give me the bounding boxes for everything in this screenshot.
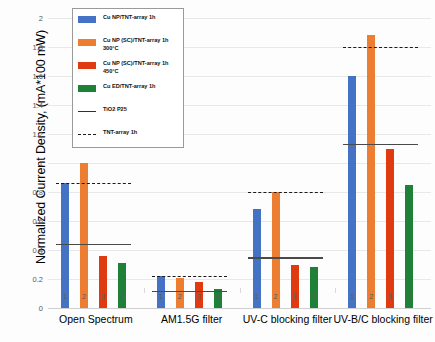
x-axis-group-label: UV-B/C blocking filter [334, 313, 433, 325]
x-axis-tick-label: 3 [101, 293, 105, 300]
x-axis-tick-label: 4 [120, 293, 124, 300]
reference-line-dashed [248, 192, 323, 193]
x-axis-group-label: Open Spectrum [59, 313, 133, 325]
legend-item: Cu NP/TNT-array 1h [78, 14, 179, 31]
reference-line-solid [343, 144, 418, 145]
y-axis-tick-label: 1.4 [33, 101, 43, 110]
y-axis-tick-label: 0 [39, 304, 43, 313]
legend-swatch-icon [78, 85, 96, 92]
y-axis-tick-label: 1 [39, 159, 43, 168]
bar-chart: Normalized Current Density, (mA*100 mW) … [0, 0, 435, 342]
reference-line-solid [248, 257, 323, 258]
y-axis-tick-label: 1.6 [33, 72, 43, 81]
x-axis-tick-label: 4 [216, 293, 220, 300]
y-axis-tick-label: 0.6 [33, 217, 43, 226]
x-axis-tick-label: 2 [82, 293, 86, 300]
x-axis-tick-label: 1 [255, 293, 259, 300]
legend-swatch-icon [78, 111, 96, 112]
x-axis-tick-label: 2 [274, 293, 278, 300]
reference-line-dashed [56, 183, 131, 184]
reference-line-dashed [152, 276, 227, 277]
legend-item-label: Cu NP (SC)/TNT-array 1h 450°C [103, 60, 168, 75]
legend-swatch-icon [78, 62, 96, 69]
y-axis-tick-label: 0.2 [33, 275, 43, 284]
bar [367, 35, 375, 308]
y-axis-tick-label: 0.8 [33, 188, 43, 197]
legend-item: TiO2 P25 [78, 106, 179, 123]
bar [348, 76, 356, 308]
x-axis-tick-label: 3 [293, 293, 297, 300]
y-axis-tick-label: 0.4 [33, 246, 43, 255]
reference-line-solid [56, 244, 131, 245]
legend-swatch-icon [78, 39, 96, 46]
bar [386, 149, 394, 309]
x-axis-group-separator [240, 288, 241, 293]
x-axis-tick-label: 4 [407, 293, 411, 300]
gridline [48, 308, 431, 309]
x-axis-tick-label: 1 [159, 293, 163, 300]
legend-swatch-icon [78, 16, 96, 23]
bar [80, 163, 88, 308]
legend-item: Cu NP (SC)/TNT-array 1h 450°C [78, 60, 179, 77]
x-axis-tick-label: 3 [197, 293, 201, 300]
x-axis-tick-label: 4 [312, 293, 316, 300]
legend-item: Cu ED/TNT-array 1h [78, 83, 179, 100]
y-axis-tick-label: 1.8 [33, 43, 43, 52]
bar [272, 192, 280, 308]
y-axis-tick-label: 1.2 [33, 130, 43, 139]
legend-item: TNT-array 1h [78, 129, 179, 146]
legend-item-label: Cu NP (SC)/TNT-array 1h 300°C [103, 37, 168, 52]
bar [291, 265, 299, 309]
reference-line-dashed [343, 47, 418, 48]
reference-line-solid [152, 291, 227, 292]
x-axis-tick-label: 1 [63, 293, 67, 300]
chart-legend: Cu NP/TNT-array 1hCu NP (SC)/TNT-array 1… [72, 8, 184, 148]
legend-item-label: TiO2 P25 [103, 106, 127, 114]
legend-item-label: Cu NP/TNT-array 1h [103, 14, 156, 22]
legend-item-label: Cu ED/TNT-array 1h [103, 83, 156, 91]
x-axis-group-separator [144, 288, 145, 293]
y-axis-tick-label: 2 [39, 14, 43, 23]
legend-swatch-icon [78, 134, 96, 135]
x-axis-tick-label: 1 [350, 293, 354, 300]
bar [118, 263, 126, 308]
x-axis-tick-label: 2 [178, 293, 182, 300]
bar [99, 256, 107, 308]
bar [310, 267, 318, 308]
x-axis-tick-label: 2 [369, 293, 373, 300]
x-axis-group-separator [335, 288, 336, 293]
bar [405, 185, 413, 308]
legend-item: Cu NP (SC)/TNT-array 1h 300°C [78, 37, 179, 54]
x-axis-group-label: UV-C blocking filter [243, 313, 332, 325]
bar [61, 183, 69, 308]
x-axis-group-label: AM1.5G filter [161, 313, 222, 325]
legend-item-label: TNT-array 1h [103, 129, 137, 137]
x-axis-tick-label: 3 [388, 293, 392, 300]
